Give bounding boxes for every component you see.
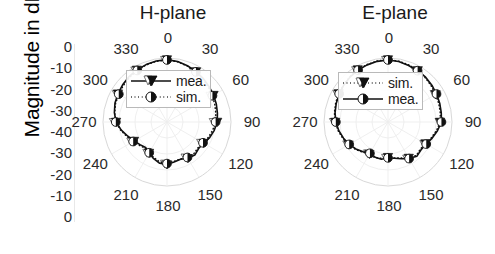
y-axis-tick: -30: [38, 146, 72, 160]
data-marker: [384, 56, 393, 65]
data-marker: [422, 140, 431, 149]
angle-tick-30: 30: [197, 41, 223, 56]
angle-tick-120: 120: [449, 156, 475, 171]
figure-root: Magnitude in dB 0-10-20-30-40-30-20-100 …: [0, 0, 495, 254]
angle-tick-330: 330: [334, 41, 360, 56]
angle-tick-0: 0: [155, 30, 181, 45]
legend-label: sim.: [172, 89, 201, 105]
angle-tick-60: 60: [228, 72, 254, 87]
angle-tick-30: 30: [418, 41, 444, 56]
data-marker: [111, 118, 120, 127]
angle-tick-330: 330: [113, 41, 139, 56]
angle-tick-270: 270: [71, 114, 97, 129]
data-marker: [199, 138, 208, 147]
data-marker: [345, 140, 354, 149]
data-marker: [129, 137, 138, 146]
data-marker: [163, 56, 172, 65]
y-axis-tick-group: 0-10-20-30-40-30-20-100: [38, 40, 72, 224]
angle-tick-90: 90: [460, 114, 486, 129]
angle-tick-90: 90: [239, 114, 265, 129]
angle-tick-60: 60: [449, 72, 475, 87]
panel-h-plane: H-plane 0306090120150180210240270300330m…: [78, 0, 268, 254]
y-axis-tick: -20: [38, 83, 72, 97]
data-marker: [114, 90, 123, 99]
y-axis-tick: 0: [38, 40, 72, 54]
data-marker: [163, 159, 172, 168]
e-plane-legend: sim.mea.: [338, 72, 423, 110]
angle-tick-150: 150: [197, 187, 223, 202]
h-plane-legend: mea.sim.: [126, 70, 211, 108]
e-plane-title: E-plane: [300, 2, 490, 24]
angle-tick-240: 240: [303, 156, 329, 171]
y-axis-tick: -30: [38, 104, 72, 118]
h-plane-title: H-plane: [78, 2, 268, 24]
legend-item-mea[interactable]: mea.: [342, 91, 418, 107]
data-marker: [405, 154, 414, 163]
y-axis-line: [74, 44, 75, 222]
angle-tick-210: 210: [113, 187, 139, 202]
angle-tick-180: 180: [376, 198, 402, 213]
legend-item-sim[interactable]: sim.: [130, 89, 206, 105]
angle-tick-300: 300: [303, 72, 329, 87]
legend-swatch: [342, 75, 384, 91]
y-axis-tick: -10: [38, 61, 72, 75]
legend-label: mea.: [384, 91, 418, 107]
data-marker: [432, 90, 441, 99]
angle-tick-0: 0: [376, 30, 402, 45]
y-axis-tick: -20: [38, 168, 72, 182]
data-marker: [183, 153, 192, 162]
panel-e-plane: E-plane 0306090120150180210240270300330s…: [300, 0, 490, 254]
legend-swatch: [130, 73, 172, 89]
angle-tick-270: 270: [292, 114, 318, 129]
data-marker: [384, 153, 393, 162]
legend-item-mea[interactable]: mea.: [130, 73, 206, 89]
data-marker: [331, 118, 340, 127]
legend-label: sim.: [384, 75, 413, 91]
angle-tick-180: 180: [155, 198, 181, 213]
legend-item-sim[interactable]: sim.: [342, 75, 418, 91]
angle-tick-210: 210: [334, 187, 360, 202]
angle-tick-120: 120: [228, 156, 254, 171]
y-axis-tick: -40: [38, 125, 72, 139]
y-axis-tick: -10: [38, 189, 72, 203]
data-marker: [145, 148, 154, 157]
angle-tick-150: 150: [418, 187, 444, 202]
data-marker: [211, 118, 220, 127]
angle-tick-300: 300: [82, 72, 108, 87]
data-marker: [437, 118, 446, 127]
legend-swatch: [342, 91, 384, 107]
legend-label: mea.: [172, 73, 206, 89]
data-marker: [366, 149, 375, 158]
y-axis-tick: 0: [38, 210, 72, 224]
angle-tick-240: 240: [82, 156, 108, 171]
legend-swatch: [130, 89, 172, 105]
